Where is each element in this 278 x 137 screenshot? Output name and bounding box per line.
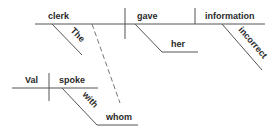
- prepositional-object-word: whom: [105, 112, 132, 122]
- indirect-object-slant: [135, 24, 162, 52]
- subject-word: clerk: [48, 11, 70, 21]
- sentence-diagram: clerk gave information The her incorrect…: [0, 0, 278, 137]
- indirect-object-word: her: [171, 39, 186, 49]
- preposition-word: with: [80, 89, 100, 110]
- relative-verb-word: spoke: [59, 75, 85, 85]
- object-modifier-word: incorrect: [236, 25, 269, 61]
- direct-object-word: information: [205, 11, 255, 21]
- relative-subject-word: Val: [25, 75, 38, 85]
- verb-word: gave: [137, 11, 158, 21]
- relative-pronoun-connector: [92, 24, 120, 103]
- subject-modifier-word: The: [69, 25, 87, 43]
